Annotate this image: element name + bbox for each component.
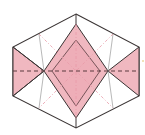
accent-mark xyxy=(142,60,144,62)
origami-diagram xyxy=(0,0,145,135)
diagram-canvas xyxy=(0,0,145,135)
